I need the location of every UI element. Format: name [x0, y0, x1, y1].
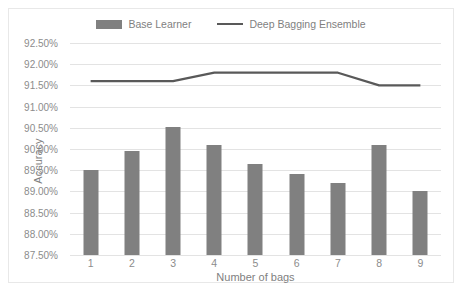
- x-axis-title: Number of bags: [70, 271, 441, 283]
- line-path-svg: [70, 43, 441, 255]
- y-axis-tick-label: 91.50%: [24, 80, 58, 91]
- y-axis-tick-label: 87.50%: [24, 250, 58, 261]
- legend-line-swatch-icon: [217, 23, 243, 25]
- legend-bar-swatch-icon: [96, 20, 122, 29]
- line-path[interactable]: [91, 73, 421, 86]
- y-axis-tick-labels: 92.50%92.00%91.50%91.00%90.50%90.00%89.5…: [9, 43, 66, 255]
- gridline: [70, 255, 441, 256]
- y-axis-tick-label: 89.00%: [24, 186, 58, 197]
- x-axis-tick-label: 8: [376, 257, 382, 269]
- legend-item-base-learner: Base Learner: [96, 18, 191, 30]
- y-axis-tick-label: 89.50%: [24, 165, 58, 176]
- x-axis-tick-label: 9: [417, 257, 423, 269]
- chart-container: Base Learner Deep Bagging Ensemble Accur…: [8, 8, 454, 283]
- y-axis-tick-label: 88.50%: [24, 207, 58, 218]
- x-axis-tick-label: 7: [335, 257, 341, 269]
- plot-area: [70, 43, 441, 255]
- line-series-deep-bagging-ensemble: [70, 43, 441, 255]
- x-axis-tick-label: 5: [253, 257, 259, 269]
- chart-legend: Base Learner Deep Bagging Ensemble: [9, 18, 453, 30]
- y-axis-tick-label: 92.50%: [24, 38, 58, 49]
- x-axis-tick-label: 4: [211, 257, 217, 269]
- y-axis-tick-label: 92.00%: [24, 59, 58, 70]
- x-axis-tick-label: 3: [170, 257, 176, 269]
- legend-label-deep-bagging-ensemble: Deep Bagging Ensemble: [249, 18, 365, 30]
- legend-item-deep-bagging-ensemble: Deep Bagging Ensemble: [217, 18, 365, 30]
- y-axis-tick-label: 90.00%: [24, 144, 58, 155]
- legend-label-base-learner: Base Learner: [128, 18, 191, 30]
- y-axis-tick-label: 90.50%: [24, 122, 58, 133]
- x-axis-tick-label: 6: [294, 257, 300, 269]
- y-axis-tick-label: 88.00%: [24, 228, 58, 239]
- y-axis-tick-label: 91.00%: [24, 101, 58, 112]
- x-axis-tick-label: 2: [129, 257, 135, 269]
- x-axis-tick-label: 1: [88, 257, 94, 269]
